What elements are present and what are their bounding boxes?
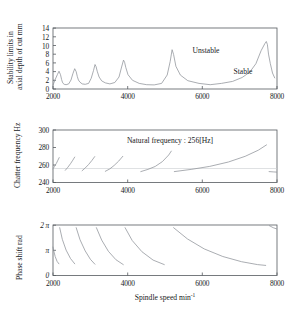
stability-ylabel-line1: Stability limits in [6, 31, 15, 84]
x-axis-label-superscript: -1 [191, 292, 196, 298]
stability-ytick-8: 8 [46, 50, 50, 59]
stability-xtick-4000: 4000 [121, 92, 135, 101]
stability-ytick-6: 6 [46, 59, 50, 68]
chatter-ylabel: Chatter frequency Hz [13, 122, 22, 188]
x-axis-label-main: Spindle speed min [135, 293, 191, 302]
stability-ylabel-line2: axial depth of cut mm [15, 23, 24, 90]
stability-ylabel: Stability limits in axial depth of cut m… [6, 23, 24, 90]
stability-xtick-2000: 2000 [46, 92, 60, 101]
phase-ytick-pi: π [45, 246, 49, 255]
phase-xtick-8000: 8000 [270, 279, 284, 288]
stability-ytick-4: 4 [46, 67, 50, 76]
phase-ylabel: Phase shift rad [15, 235, 24, 280]
stability-xtick-6000: 6000 [195, 92, 209, 101]
chatter-ytick-280: 280 [39, 143, 50, 152]
phase-xtick-6000: 6000 [195, 279, 209, 288]
chatter-xtick-2000: 2000 [46, 186, 60, 195]
stability-ytick-2: 2 [46, 76, 50, 85]
stability-xtick-8000: 8000 [270, 92, 284, 101]
phase-xtick-4000: 4000 [121, 279, 135, 288]
panel-stability-limits: Stability limits in axial depth of cut m… [0, 8, 291, 106]
chatter-annotation-natural-frequency: Natural frequency : 256[Hz] [127, 136, 213, 145]
stability-ytick-12: 12 [42, 33, 49, 42]
chatter-xtick-6000: 6000 [195, 186, 209, 195]
stability-annotation-stable: Stable [234, 67, 254, 76]
phase-xtick-2000: 2000 [46, 279, 60, 288]
x-axis-label: Spindle speed min-1 [135, 292, 196, 302]
panel-chatter-frequency: Chatter frequency Hz 240 260 280 300 [0, 112, 291, 206]
phase-plot-frame [53, 225, 277, 276]
panel-phase-shift: Phase shift rad 0 π 2 π [0, 212, 291, 324]
chatter-xtick-4000: 4000 [121, 186, 135, 195]
stability-plot-frame [53, 28, 277, 89]
stability-ytick-10: 10 [42, 42, 49, 51]
stability-annotation-unstable: Unstable [193, 46, 221, 55]
chatter-xtick-8000: 8000 [270, 186, 284, 195]
stability-lobe-figure: Stability limits in axial depth of cut m… [0, 0, 291, 324]
phase-ytick-2pi: 2 π [40, 221, 49, 230]
stability-ytick-14: 14 [42, 24, 49, 33]
chatter-branch-7 [269, 172, 277, 173]
chatter-ytick-300: 300 [39, 126, 50, 135]
chatter-ytick-260: 260 [39, 161, 50, 170]
